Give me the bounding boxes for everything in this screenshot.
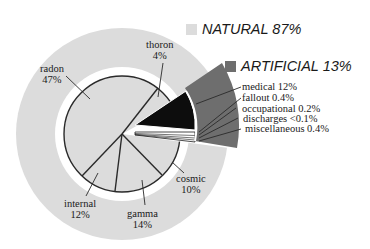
artificial-swatch-icon [225, 61, 236, 72]
thoron-name: thoron [146, 39, 173, 50]
legend-natural-label: NATURAL 87% [202, 21, 301, 37]
cosmic-name: cosmic [176, 173, 206, 184]
legend-natural: NATURAL 87% [186, 21, 301, 37]
gamma-name: gamma [127, 208, 158, 219]
label-thoron: thoron 4% [146, 39, 173, 61]
thoron-value: 4% [146, 50, 173, 61]
legend-artificial: ARTIFICIAL 13% [225, 58, 352, 74]
label-fallout: fallout 0.4% [242, 92, 294, 103]
internal-name: internal [64, 198, 96, 209]
label-gamma: gamma 14% [127, 208, 158, 230]
label-miscellaneous: miscellaneous 0.4% [245, 123, 329, 134]
label-medical: medical 12% [242, 81, 297, 92]
legend-artificial-label: ARTIFICIAL 13% [241, 58, 352, 74]
gamma-value: 14% [127, 219, 158, 230]
natural-swatch-icon [186, 24, 197, 35]
label-radon: radon 47% [40, 63, 64, 85]
radon-name: radon [40, 63, 64, 74]
label-cosmic: cosmic 10% [176, 173, 206, 195]
label-internal: internal 12% [64, 198, 96, 220]
radon-value: 47% [40, 74, 64, 85]
cosmic-value: 10% [176, 184, 206, 195]
internal-value: 12% [64, 209, 96, 220]
